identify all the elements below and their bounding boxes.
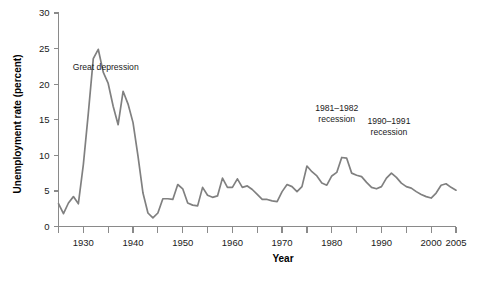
- y-axis-tick-labels: 051015202530: [39, 7, 50, 232]
- y-tick-label: 15: [39, 114, 50, 125]
- x-tick-label: 1970: [272, 237, 293, 248]
- x-tick-label: 1980: [321, 237, 342, 248]
- x-tick-label: 1990: [371, 237, 392, 248]
- annotation-recession-1990-1991: 1990–1991recession: [367, 116, 410, 136]
- y-tick-label: 25: [39, 43, 50, 54]
- x-axis-ticks: [59, 227, 457, 233]
- y-axis-title: Unemployment rate (percent): [12, 55, 23, 194]
- x-tick-label: 2000: [421, 237, 442, 248]
- y-axis-ticks: [54, 13, 59, 227]
- annotation-recession-1981-1982: 1981–1982recession: [315, 103, 358, 124]
- x-tick-label: 1960: [222, 237, 243, 248]
- annotation-great-depression: Great depression: [73, 62, 139, 72]
- y-tick-label: 20: [39, 79, 50, 90]
- chart-figure: Unemployment rate (percent) 051015202530…: [0, 0, 489, 285]
- x-axis-tick-labels: 193019401950196019701980199020002005: [73, 237, 467, 248]
- x-tick-label: 1950: [172, 237, 193, 248]
- y-tick-label: 10: [39, 150, 50, 161]
- x-tick-label: 1930: [73, 237, 94, 248]
- y-tick-label: 30: [39, 7, 50, 18]
- x-tick-label: 1940: [122, 237, 143, 248]
- y-tick-label: 0: [44, 221, 49, 232]
- chart-annotations: Great depression1981–1982recession1990–1…: [73, 62, 411, 137]
- x-tick-label: 2005: [445, 237, 466, 248]
- y-tick-label: 5: [44, 185, 49, 196]
- unemployment-rate-line-chart: Unemployment rate (percent) 051015202530…: [0, 0, 489, 285]
- x-axis-title: Year: [272, 253, 293, 264]
